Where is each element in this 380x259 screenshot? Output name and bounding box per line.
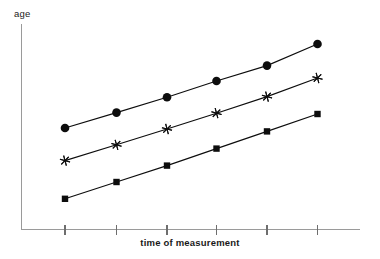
data-point-circle xyxy=(263,61,272,70)
data-point-circle xyxy=(61,124,70,133)
series-line xyxy=(65,78,318,161)
data-point-circle xyxy=(313,40,322,49)
data-point-asterisk-ray xyxy=(113,141,120,148)
data-point-asterisk-ray xyxy=(314,74,321,81)
series-line xyxy=(65,44,318,128)
data-point-asterisk-ray xyxy=(163,125,170,132)
data-point-circle xyxy=(212,77,221,86)
axes-group xyxy=(22,24,361,230)
data-point-square xyxy=(113,179,119,185)
data-point-circle xyxy=(163,93,172,102)
series-line xyxy=(65,114,318,199)
data-point-square xyxy=(314,111,320,117)
data-point-asterisk-ray xyxy=(213,110,220,117)
data-point-square xyxy=(164,162,170,168)
data-series xyxy=(61,40,322,133)
data-series xyxy=(62,111,321,202)
data-point-asterisk-ray xyxy=(61,157,68,164)
data-point-asterisk-ray xyxy=(263,93,270,100)
x-axis-label: time of measurement xyxy=(0,237,380,248)
plot-area xyxy=(0,0,380,259)
data-point-circle xyxy=(112,108,121,117)
chart-figure: age time of measurement xyxy=(0,0,380,259)
data-point-square xyxy=(62,196,68,202)
data-point-square xyxy=(213,145,219,151)
data-point-square xyxy=(264,128,270,134)
data-series xyxy=(60,73,323,166)
data-series-group xyxy=(60,40,323,202)
